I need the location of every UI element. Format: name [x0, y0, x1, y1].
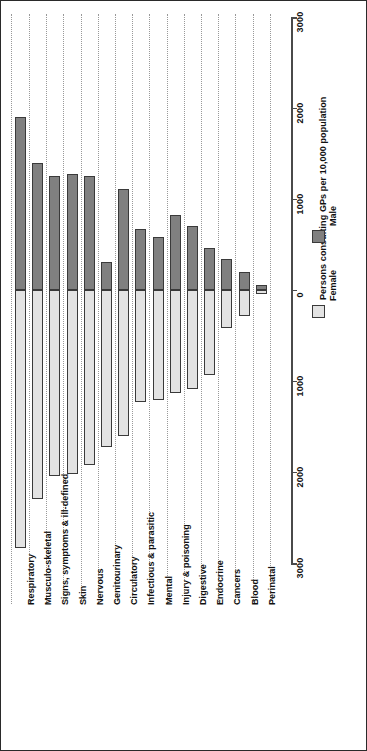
- gridline: [201, 14, 202, 604]
- bar-female: [170, 290, 181, 393]
- bar-male: [67, 174, 78, 290]
- bar-female: [67, 290, 78, 474]
- bar-female: [187, 290, 198, 389]
- chart-figure: 3000200010000100020003000 Persons consul…: [0, 0, 367, 751]
- legend-label: Male: [328, 206, 338, 226]
- bar-female: [204, 290, 215, 375]
- bar-group: [32, 0, 43, 620]
- bar-male: [239, 272, 250, 290]
- gridline: [270, 14, 271, 604]
- axis-tick-label: 1000: [295, 194, 305, 215]
- axis-tick-label: 1000: [295, 376, 305, 397]
- category-label: Skin: [78, 586, 88, 605]
- bar-male: [170, 215, 181, 290]
- gridline: [46, 14, 47, 604]
- bar-group: [49, 0, 60, 620]
- gridline: [115, 14, 116, 604]
- bar-male: [101, 262, 112, 290]
- value-axis-title: Persons consulting GPs per 10,000 popula…: [318, 97, 328, 300]
- bar-female: [239, 290, 250, 316]
- axis-tick-label: 3000: [295, 12, 305, 33]
- bar-male: [32, 163, 43, 290]
- bar-female: [101, 290, 112, 447]
- bar-male: [118, 189, 129, 290]
- bar-male: [15, 117, 26, 290]
- axis-tick-label: 2000: [295, 467, 305, 488]
- bar-female: [118, 290, 129, 436]
- category-label: Nervous: [95, 568, 105, 605]
- category-label: Mental: [164, 576, 174, 605]
- bar-group: [101, 0, 112, 620]
- bar-group: [204, 0, 215, 620]
- bar-male: [153, 237, 164, 290]
- bar-female: [32, 290, 43, 499]
- bar-male: [187, 226, 198, 290]
- legend-label: Female: [328, 270, 338, 301]
- category-label: Digestive: [198, 564, 208, 605]
- gridline: [98, 14, 99, 604]
- bar-male: [204, 248, 215, 290]
- bar-group: [170, 0, 181, 620]
- category-label: Perinatal: [267, 566, 277, 605]
- gridline: [132, 14, 133, 604]
- bar-female: [49, 290, 60, 476]
- bar-male: [135, 229, 146, 290]
- gridline: [218, 14, 219, 604]
- gridline: [235, 14, 236, 604]
- bar-female: [15, 290, 26, 548]
- bar-female: [84, 290, 95, 465]
- category-label: Genitourinary: [112, 545, 122, 605]
- bar-male: [49, 176, 60, 290]
- bar-female: [153, 290, 164, 400]
- legend-swatch-male: [312, 230, 325, 243]
- gridline: [29, 14, 30, 604]
- category-label: Injury & poisoning: [181, 524, 191, 605]
- axis-tick-label: 3000: [295, 558, 305, 579]
- bar-female: [221, 290, 232, 328]
- bar-group: [135, 0, 146, 620]
- category-label: Infectious & parasitic: [146, 512, 156, 605]
- gridline: [184, 14, 185, 604]
- category-label: Signs, symptoms & ill-defined: [60, 474, 70, 605]
- axis-tick: [291, 290, 297, 291]
- category-label: Circulatory: [129, 556, 139, 605]
- bar-female: [256, 290, 267, 294]
- axis-tick-label: 2000: [295, 103, 305, 124]
- axis-tick-label: 0: [295, 292, 305, 297]
- bar-male: [221, 259, 232, 290]
- category-label: Blood: [250, 579, 260, 605]
- category-label: Cancers: [232, 569, 242, 605]
- gridline: [81, 14, 82, 604]
- gridline: [11, 14, 12, 604]
- bar-group: [15, 0, 26, 620]
- bar-group: [221, 0, 232, 620]
- bar-group: [256, 0, 267, 620]
- bar-female: [135, 290, 146, 402]
- category-label: Musculo-skeletal: [43, 531, 53, 605]
- bar-male: [84, 176, 95, 290]
- legend-swatch-female: [312, 305, 325, 318]
- category-label: Respiratory: [26, 554, 36, 605]
- gridline: [167, 14, 168, 604]
- bar-group: [118, 0, 129, 620]
- gridline: [253, 14, 254, 604]
- bar-group: [84, 0, 95, 620]
- bar-group: [239, 0, 250, 620]
- category-label: Endocrine: [215, 560, 225, 605]
